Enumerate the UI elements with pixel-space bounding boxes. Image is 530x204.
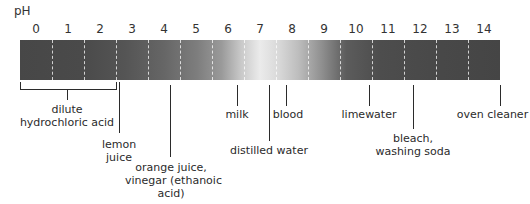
pointer-orange-juice bbox=[170, 85, 171, 157]
ph-number-14: 14 bbox=[468, 22, 500, 36]
label-distilled-water: distilled water bbox=[229, 144, 309, 157]
hcl-bracket-right bbox=[116, 82, 117, 90]
segment-divider bbox=[84, 40, 85, 80]
label-blood: blood bbox=[268, 108, 308, 121]
ph-number-10: 10 bbox=[340, 22, 372, 36]
hcl-bracket-stem bbox=[67, 89, 68, 100]
label-dilute-hcl-line1: dilute bbox=[17, 103, 117, 116]
label-bleach-line1: bleach, bbox=[373, 132, 453, 145]
segment-divider bbox=[212, 40, 213, 80]
segment-divider bbox=[308, 40, 309, 80]
hcl-bracket-bottom bbox=[20, 89, 117, 90]
segment-divider bbox=[52, 40, 53, 80]
label-dilute-hcl-line2: hydrochloric acid bbox=[17, 116, 117, 129]
pointer-limewater bbox=[369, 85, 370, 106]
pointer-blood bbox=[286, 85, 287, 106]
ph-number-5: 5 bbox=[180, 22, 212, 36]
ph-axis-title: pH bbox=[14, 4, 31, 18]
segment-divider bbox=[468, 40, 469, 80]
ph-number-9: 9 bbox=[308, 22, 340, 36]
ph-number-3: 3 bbox=[116, 22, 148, 36]
segment-divider bbox=[180, 40, 181, 80]
pointer-oven-cleaner bbox=[500, 85, 501, 106]
label-bleach-line2: washing soda bbox=[373, 145, 453, 158]
ph-number-2: 2 bbox=[84, 22, 116, 36]
label-oven-cleaner: oven cleaner bbox=[455, 108, 530, 121]
segment-divider bbox=[244, 40, 245, 80]
segment-divider bbox=[116, 40, 117, 80]
label-limewater: limewater bbox=[339, 108, 399, 121]
segment-divider bbox=[340, 40, 341, 80]
label-milk: milk bbox=[217, 108, 257, 121]
segment-divider bbox=[148, 40, 149, 80]
label-dilute-hcl: dilute hydrochloric acid bbox=[17, 103, 117, 129]
ph-number-1: 1 bbox=[52, 22, 84, 36]
ph-number-0: 0 bbox=[20, 22, 52, 36]
ph-number-11: 11 bbox=[372, 22, 404, 36]
pointer-bleach bbox=[413, 85, 414, 129]
label-orange-juice: orange juice, vinegar (ethanoic acid) bbox=[125, 161, 217, 200]
segment-divider bbox=[436, 40, 437, 80]
label-lemon-juice-line1: lemon bbox=[99, 138, 139, 151]
ph-scale-bar bbox=[20, 40, 500, 80]
segment-divider bbox=[276, 40, 277, 80]
segment-divider bbox=[372, 40, 373, 80]
ph-number-7: 7 bbox=[244, 22, 276, 36]
label-orange-juice-line3: acid) bbox=[125, 187, 217, 200]
ph-number-8: 8 bbox=[276, 22, 308, 36]
pointer-lemon-juice bbox=[119, 82, 120, 133]
ph-number-13: 13 bbox=[436, 22, 468, 36]
ph-number-12: 12 bbox=[404, 22, 436, 36]
label-orange-juice-line1: orange juice, bbox=[125, 161, 217, 174]
segment-divider bbox=[404, 40, 405, 80]
label-orange-juice-line2: vinegar (ethanoic bbox=[125, 174, 217, 187]
ph-number-6: 6 bbox=[212, 22, 244, 36]
ph-number-4: 4 bbox=[148, 22, 180, 36]
pointer-milk bbox=[237, 85, 238, 106]
label-bleach: bleach, washing soda bbox=[373, 132, 453, 158]
